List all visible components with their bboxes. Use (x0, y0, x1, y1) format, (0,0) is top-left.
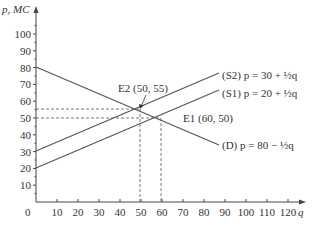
e2-label: E2 (50, 55) (118, 82, 168, 95)
svg-text:20: 20 (73, 206, 85, 218)
svg-text:110: 110 (259, 206, 276, 218)
svg-text:60: 60 (157, 206, 169, 218)
y-ticks: 102030405060708090100 (15, 26, 37, 194)
demand-label: (D) p = 80 − ½q (222, 139, 294, 152)
svg-text:70: 70 (20, 78, 32, 90)
svg-text:40: 40 (115, 206, 127, 218)
s2-label: (S2) p = 30 + ½q (222, 69, 298, 82)
e1-label: E1 (60, 50) (183, 112, 233, 125)
y-axis-label: p, MC (1, 3, 30, 15)
svg-text:90: 90 (20, 45, 32, 57)
svg-text:10: 10 (20, 179, 32, 191)
supply-demand-chart: 102030405060708090100 102030405060708090… (0, 0, 312, 229)
svg-text:80: 80 (199, 206, 211, 218)
svg-text:20: 20 (20, 162, 32, 174)
y-axis-arrow-icon (34, 6, 39, 13)
svg-text:70: 70 (178, 206, 190, 218)
x-axis-arrow-icon (299, 200, 306, 205)
svg-text:90: 90 (220, 206, 232, 218)
svg-text:40: 40 (20, 129, 32, 141)
supply-s1-line (36, 90, 219, 168)
demand-line (36, 67, 219, 145)
svg-text:30: 30 (20, 146, 32, 158)
x-axis-label: q (298, 206, 304, 218)
svg-text:100: 100 (238, 206, 255, 218)
svg-text:10: 10 (52, 206, 64, 218)
e2-arrow-icon (139, 104, 144, 109)
svg-text:60: 60 (20, 95, 32, 107)
svg-text:80: 80 (20, 62, 32, 74)
svg-text:100: 100 (15, 28, 32, 40)
svg-text:50: 50 (136, 206, 148, 218)
svg-text:50: 50 (20, 112, 32, 124)
svg-text:120: 120 (280, 206, 297, 218)
origin-label: 0 (25, 206, 31, 218)
svg-text:30: 30 (94, 206, 106, 218)
s1-label: (S1) p = 20 + ½q (222, 87, 298, 100)
